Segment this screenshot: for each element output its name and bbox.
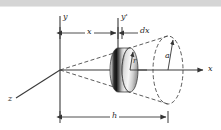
- height-h-label: h: [110, 112, 119, 120]
- distance-x-label: x: [85, 28, 94, 36]
- cone-diagram-svg: [0, 0, 221, 130]
- x-axis-label: x: [208, 65, 213, 73]
- y-axis-label: y: [63, 13, 68, 21]
- z-axis-label: z: [8, 95, 12, 103]
- base-radius-label: a: [165, 52, 170, 60]
- thickness-dx-label: dx: [140, 27, 150, 35]
- z-axis-line: [16, 70, 60, 98]
- figure-container: y y' z x x dx r a h: [0, 0, 221, 130]
- disk-radius-label: r: [133, 58, 136, 65]
- y-prime-axis-label: y': [121, 13, 128, 21]
